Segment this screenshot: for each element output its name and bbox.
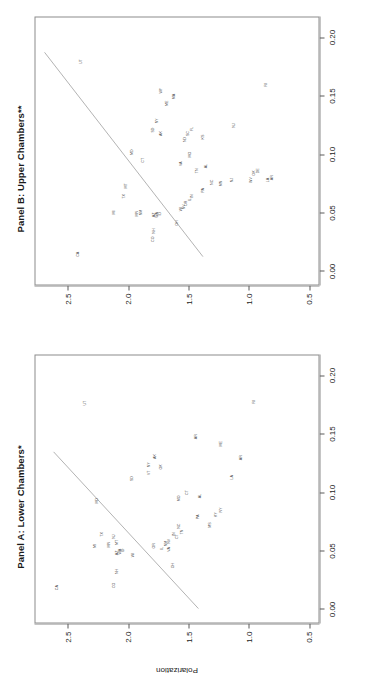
y-tick-mark (188, 285, 189, 290)
panel-a-title: Panel A: Lower Chambers* (14, 338, 25, 675)
y-tick-label: 1.5 (184, 631, 193, 642)
panel-b-y-axis: 0.51.01.52.02.5 (34, 285, 319, 337)
y-tick-label: 0.5 (305, 293, 314, 304)
panel-upper-chambers: Panel B: Upper Chambers** 0.51.01.52.02.… (0, 0, 365, 337)
y-tick-mark (248, 285, 249, 290)
y-tick-mark (67, 285, 68, 290)
x-tick-mark (319, 154, 324, 155)
x-tick-mark (319, 95, 324, 96)
panel-a-y-axis: 0.51.01.52.02.5 (34, 623, 319, 675)
panel-a-x-axis: 0.000.050.100.150.20 (319, 354, 365, 623)
x-tick-mark (319, 550, 324, 551)
y-tick-mark (128, 285, 129, 290)
y-tick-mark (309, 623, 310, 628)
panel-b-plot-frame: CACONHAZWAIDOHMIMNNMTXMTWINVORILINPANCMN… (34, 16, 319, 285)
x-tick-mark (319, 270, 324, 271)
x-tick-label: 0.10 (327, 484, 336, 500)
x-tick-label: 0.05 (327, 205, 336, 221)
x-tick-mark (319, 492, 324, 493)
y-tick-label: 1.0 (244, 293, 253, 304)
y-tick-label: 2.5 (63, 631, 72, 642)
y-tick-label: 0.5 (305, 631, 314, 642)
x-tick-label: 0.20 (327, 29, 336, 45)
x-tick-mark (319, 608, 324, 609)
y-tick-mark (309, 285, 310, 290)
x-tick-label: 0.20 (327, 367, 336, 383)
y-tick-label: 1.0 (244, 631, 253, 642)
y-tick-mark (188, 623, 189, 628)
panel-b-x-axis: 0.000.050.100.150.20 (319, 16, 365, 285)
x-tick-mark (319, 433, 324, 434)
y-tick-mark (67, 623, 68, 628)
y-tick-mark (248, 623, 249, 628)
x-tick-label: 0.05 (327, 543, 336, 559)
panel-a-regression-line (35, 355, 302, 622)
panel-lower-chambers: Panel A: Lower Chambers* Polarization 0.… (0, 338, 365, 675)
y-tick-label: 1.5 (184, 293, 193, 304)
panel-a-plot-frame: CACONHAZWAIDOHMITXMNMTNJWIORILNMVANVCTIN… (34, 354, 319, 623)
x-tick-mark (319, 37, 324, 38)
panel-b-regression-line (35, 17, 302, 284)
x-tick-label: 0.15 (327, 88, 336, 104)
x-tick-label: 0.00 (327, 601, 336, 617)
x-tick-label: 0.00 (327, 263, 336, 279)
x-tick-mark (319, 212, 324, 213)
y-tick-label: 2.0 (124, 293, 133, 304)
x-tick-label: 0.10 (327, 146, 336, 162)
y-tick-label: 2.5 (63, 293, 72, 304)
y-tick-mark (128, 623, 129, 628)
x-tick-label: 0.15 (327, 426, 336, 442)
y-tick-label: 2.0 (124, 631, 133, 642)
figure-canvas: Panel A: Lower Chambers* Polarization 0.… (0, 0, 365, 675)
panel-b-title: Panel B: Upper Chambers** (14, 0, 25, 337)
x-tick-mark (319, 375, 324, 376)
